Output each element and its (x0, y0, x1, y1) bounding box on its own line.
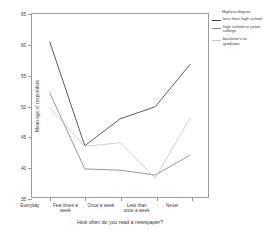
x-tick-label: Few times aweek (45, 203, 85, 214)
y-tick-label: 45 (21, 135, 26, 140)
x-tick-label-line: Everyday (10, 203, 50, 208)
x-tick-label: Less thanonce a week (117, 203, 157, 214)
y-tick-label: 55 (21, 73, 26, 78)
legend-item-label: high school or juniorcollege (223, 25, 260, 35)
x-tick-label: Never (152, 203, 192, 208)
x-tick-mark (121, 197, 122, 201)
x-tick-label-line: once a week (117, 208, 157, 213)
y-tick-label: 60 (21, 42, 26, 47)
x-tick-mark (157, 197, 158, 201)
x-axis-title: How often do you read a newspaper? (32, 219, 208, 225)
x-tick-mark (85, 197, 86, 201)
x-tick-label-line: Once a week (81, 203, 121, 208)
x-tick-label: Once a week (81, 203, 121, 208)
legend-item-label-line: graduate (223, 42, 247, 47)
legend-line-icon (212, 18, 221, 23)
legend-item-label: less than high school (223, 17, 262, 22)
x-tick-mark (192, 197, 193, 201)
x-tick-label-line: Never (152, 203, 192, 208)
x-tick-label-line: week (45, 208, 85, 213)
legend: Highest degree less than high schoolhigh… (212, 9, 276, 49)
plot-area: Mean age of respondent 65605550454035 Ev… (31, 13, 209, 198)
legend-item-label-line: college (223, 29, 260, 34)
legend-title: Highest degree (222, 9, 276, 14)
y-tick-label: 40 (21, 166, 26, 171)
y-tick-label: 50 (21, 104, 26, 109)
legend-entries: less than high schoolhigh school or juni… (212, 17, 276, 46)
legend-line-icon (212, 37, 221, 42)
series-lines (32, 14, 208, 197)
chart-root: Mean age of respondent 65605550454035 Ev… (0, 0, 277, 235)
y-tick-label: 65 (21, 12, 26, 17)
legend-item[interactable]: less than high school (212, 17, 276, 22)
legend-item-label: bachelor's orgraduate (223, 37, 247, 47)
legend-item[interactable]: bachelor's orgraduate (212, 37, 276, 47)
x-tick-label: Everyday (10, 203, 50, 208)
legend-item-label-line: less than high school (223, 17, 262, 22)
legend-line-icon (212, 25, 221, 30)
legend-item[interactable]: high school or juniorcollege (212, 25, 276, 35)
y-tick-label: 35 (21, 197, 26, 202)
x-tick-mark (50, 197, 51, 201)
y-tick-mark (28, 199, 32, 200)
series-line (50, 41, 191, 145)
